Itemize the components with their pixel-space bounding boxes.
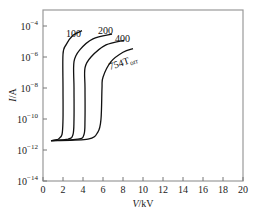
x-tick-label: 8	[121, 184, 126, 195]
x-tick-label: 6	[101, 184, 106, 195]
curve-label: 400	[115, 33, 130, 44]
x-axis-ticks: 02468101214161820	[41, 177, 249, 195]
x-tick-label: 12	[158, 184, 168, 195]
x-tick-label: 18	[218, 184, 228, 195]
curve-400	[51, 40, 124, 140]
x-axis-label: V/kV	[132, 198, 154, 209]
curve-label: 100	[66, 28, 81, 39]
curve-label: 200	[98, 25, 113, 36]
curve-100	[51, 31, 82, 141]
y-tick-label: 10−12	[17, 143, 38, 156]
y-tick-label: 10−10	[17, 112, 38, 125]
x-tick-label: 14	[178, 184, 188, 195]
iv-chart: 02468101214161820 10−410−610−810−1010−12…	[0, 0, 259, 217]
curve-label: 754Torr	[107, 52, 139, 74]
curves	[51, 31, 133, 141]
curve-200	[51, 34, 112, 141]
y-tick-label: 10−8	[21, 81, 39, 94]
x-tick-label: 2	[61, 184, 66, 195]
x-tick-label: 4	[81, 184, 86, 195]
y-tick-label: 10−6	[21, 50, 39, 63]
x-tick-label: 20	[238, 184, 248, 195]
x-tick-label: 0	[41, 184, 46, 195]
y-axis-label: I/A	[7, 88, 18, 103]
x-tick-label: 16	[198, 184, 208, 195]
y-tick-label: 10−4	[21, 19, 39, 32]
y-tick-label: 10−14	[17, 174, 38, 187]
x-tick-label: 10	[138, 184, 148, 195]
